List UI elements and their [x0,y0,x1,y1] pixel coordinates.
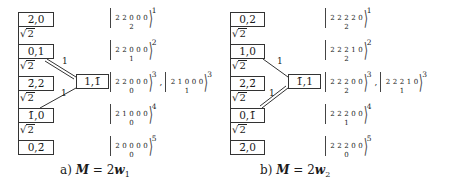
weight-node-2-0: 2,0 [18,12,54,27]
gt-pattern-ket-3: 222002⟩3,222101⟩3 [325,72,427,94]
weight-node-0-2bar: 0,2̄ [18,140,54,155]
panel-a: 2,0 √2 0,1 √2 2̄,2 √2 1̄,0 √2 0,2̄ 1 1 1… [0,0,225,187]
edge-label-sqrt2: √2 [20,60,35,72]
weight-node-0-1bar: 0,1̄ [230,108,265,123]
side-edge-label: 1 [269,88,275,98]
gt-pattern-ket-5: 222000⟩5 [325,136,372,158]
side-weight-node: 1̄,1 [288,74,321,89]
panel-b-caption: b) M = 2w2 [260,163,330,179]
side-edge-label: 1 [277,56,283,66]
edge-label-sqrt2: √2 [232,92,247,104]
side-edge-label: 1 [62,56,68,66]
gt-pattern-ket-2: 222102⟩2 [325,40,372,62]
gt-pattern-ket-1: 220002⟩1 [110,8,157,30]
gt-pattern-ket-1: 222202⟩1 [325,8,372,30]
edge-label-sqrt2: √2 [232,124,247,136]
weight-node-0-2: 0,2 [230,12,265,27]
weight-node-1bar-0: 1̄,0 [18,108,54,123]
gt-pattern-ket-2: 220001⟩2 [110,40,157,62]
weight-node-2bar-0: 2̄,0 [230,140,265,155]
edge-label-sqrt2: √2 [20,124,35,136]
side-edge-label: 1 [61,88,67,98]
edge-label-sqrt2: √2 [232,60,247,72]
weight-node-0-1: 0,1 [18,44,54,59]
edge-label-sqrt2: √2 [232,28,247,40]
gt-pattern-ket-5: 200000⟩5 [110,136,157,158]
edge-label-sqrt2: √2 [20,92,35,104]
weight-node-2bar-2: 2̄,2 [18,76,54,91]
panel-b: 0,2 √2 1,0 √2 2,2̄ √2 0,1̄ √2 2̄,0 1 1 1… [212,0,451,187]
panel-a-caption: a) M = 2w1 [60,163,130,179]
gt-pattern-ket-4: 222001⟩4 [325,104,372,126]
edge-label-sqrt2: √2 [20,28,35,40]
gt-pattern-ket-4: 210000⟩4 [110,104,157,126]
side-weight-node: 1,1̄ [76,74,109,89]
weight-node-2-2bar: 2,2̄ [230,76,265,91]
gt-pattern-ket-3: 220000⟩3,210001⟩3 [110,72,212,94]
weight-node-1-0: 1,0 [230,44,265,59]
